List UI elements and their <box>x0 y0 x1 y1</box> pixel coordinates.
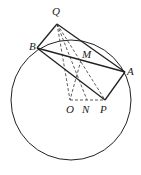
label-n: N <box>81 103 90 115</box>
segment-qo <box>57 24 70 100</box>
segment-qb <box>37 24 57 48</box>
label-q: Q <box>52 5 60 17</box>
geometry-diagram: Q B M A O N P <box>0 0 141 175</box>
label-a: A <box>126 65 134 77</box>
segment-qn <box>57 24 87 100</box>
label-b: B <box>29 40 36 52</box>
label-p: P <box>99 103 107 115</box>
segment-bp <box>37 48 105 100</box>
label-m: M <box>81 48 92 60</box>
segment-qp <box>57 24 105 100</box>
label-o: O <box>66 103 74 115</box>
segment-ap <box>105 72 125 100</box>
